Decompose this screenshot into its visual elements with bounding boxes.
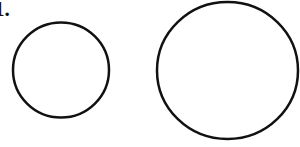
large-circle <box>157 2 298 139</box>
circles-diagram <box>0 0 300 147</box>
small-circle <box>13 23 109 118</box>
